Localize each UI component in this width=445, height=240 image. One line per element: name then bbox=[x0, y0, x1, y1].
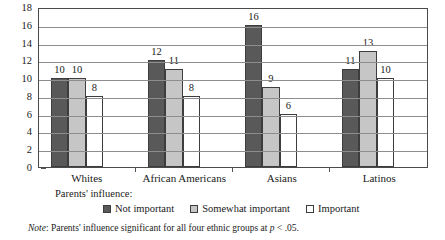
bar-slot: 16 bbox=[245, 9, 263, 167]
note-tail: < .05. bbox=[275, 223, 299, 233]
y-tick-label: 14 bbox=[8, 39, 32, 49]
chart-legend: Not importantSomewhat importantImportant bbox=[103, 203, 359, 215]
bar[interactable]: 8 bbox=[183, 96, 201, 167]
x-tick-label: Whites bbox=[38, 172, 136, 185]
gridline bbox=[39, 133, 427, 134]
note-body: : Parents' influence significant for all… bbox=[46, 223, 270, 233]
bar-value-label: 9 bbox=[268, 73, 273, 84]
y-tick-label: 8 bbox=[8, 92, 32, 102]
legend-swatch-icon bbox=[306, 205, 314, 213]
bar-group: 12118 bbox=[136, 9, 233, 167]
x-tick-label: African Americans bbox=[136, 172, 234, 185]
bar-value-label: 10 bbox=[380, 64, 391, 75]
bar-value-label: 8 bbox=[189, 82, 194, 93]
legend-swatch-icon bbox=[190, 205, 198, 213]
bars-container: 10108 bbox=[39, 9, 136, 167]
bar-groups: 10108121181696111310 bbox=[39, 9, 427, 167]
bar-slot: 10 bbox=[377, 9, 395, 167]
gridline bbox=[39, 80, 427, 81]
bar-chart-figure: 181614121086420 10108121181696111310 Whi… bbox=[0, 0, 445, 240]
bar-slot: 10 bbox=[51, 9, 69, 167]
bar-group: 10108 bbox=[39, 9, 136, 167]
bar-value-label: 6 bbox=[286, 100, 291, 111]
legend-label: Important bbox=[318, 203, 359, 215]
legend-label: Not important bbox=[115, 203, 174, 215]
bar-slot: 11 bbox=[165, 9, 183, 167]
bar-slot: 11 bbox=[342, 9, 360, 167]
gridline bbox=[39, 98, 427, 99]
bar-group: 1696 bbox=[233, 9, 330, 167]
legend-item[interactable]: Not important bbox=[103, 203, 174, 215]
x-tick-label: Asians bbox=[233, 172, 331, 185]
bar[interactable]: 10 bbox=[68, 78, 86, 167]
x-tick-label: Latinos bbox=[331, 172, 429, 185]
bar-slot: 12 bbox=[148, 9, 166, 167]
bar[interactable]: 10 bbox=[377, 78, 395, 167]
y-tick-label: 2 bbox=[8, 145, 32, 155]
y-tick-mark bbox=[41, 168, 46, 169]
note-prefix: Note bbox=[28, 223, 46, 233]
gridline bbox=[39, 62, 427, 63]
bar[interactable]: 6 bbox=[280, 114, 298, 167]
bar-group: 111310 bbox=[330, 9, 427, 167]
bar-slot: 6 bbox=[280, 9, 298, 167]
y-tick-label: 10 bbox=[8, 74, 32, 84]
bar-value-label: 13 bbox=[363, 37, 374, 48]
bar[interactable]: 8 bbox=[86, 96, 104, 167]
bar-value-label: 16 bbox=[248, 11, 259, 22]
bar-slot: 8 bbox=[86, 9, 104, 167]
legend-item[interactable]: Somewhat important bbox=[190, 203, 290, 215]
legend-item[interactable]: Important bbox=[306, 203, 359, 215]
bar-slot: 13 bbox=[359, 9, 377, 167]
y-tick-label: 0 bbox=[8, 163, 32, 173]
plot-area: 10108121181696111310 bbox=[38, 8, 428, 168]
bars-container: 111310 bbox=[330, 9, 427, 167]
bar-value-label: 8 bbox=[92, 82, 97, 93]
bar[interactable]: 11 bbox=[165, 69, 183, 167]
bar[interactable]: 11 bbox=[342, 69, 360, 167]
legend-label: Somewhat important bbox=[202, 203, 290, 215]
gridline bbox=[39, 151, 427, 152]
bar-value-label: 12 bbox=[151, 46, 162, 57]
y-tick-label: 6 bbox=[8, 110, 32, 120]
bar[interactable]: 16 bbox=[245, 25, 263, 167]
legend-swatch-icon bbox=[103, 205, 111, 213]
x-axis-labels: WhitesAfrican AmericansAsiansLatinos bbox=[38, 172, 428, 185]
bar-value-label: 11 bbox=[345, 55, 355, 66]
y-tick-label: 12 bbox=[8, 56, 32, 66]
y-tick-label: 16 bbox=[8, 21, 32, 31]
bar-slot: 8 bbox=[183, 9, 201, 167]
y-tick-label: 4 bbox=[8, 127, 32, 137]
legend-title: Parents' influence: bbox=[55, 188, 132, 200]
gridline bbox=[39, 45, 427, 46]
bar-slot: 10 bbox=[68, 9, 86, 167]
bar[interactable]: 9 bbox=[262, 87, 280, 167]
gridline bbox=[39, 27, 427, 28]
bar-value-label: 11 bbox=[169, 55, 179, 66]
bar-slot: 9 bbox=[262, 9, 280, 167]
bar[interactable]: 10 bbox=[51, 78, 69, 167]
bar[interactable]: 13 bbox=[359, 51, 377, 167]
gridline bbox=[39, 116, 427, 117]
y-axis: 181614121086420 bbox=[8, 3, 32, 168]
y-tick-label: 18 bbox=[8, 3, 32, 13]
bar-value-label: 10 bbox=[72, 64, 83, 75]
bars-container: 12118 bbox=[136, 9, 233, 167]
bar-value-label: 10 bbox=[54, 64, 65, 75]
plot-region: 181614121086420 10108121181696111310 Whi… bbox=[0, 0, 445, 178]
bars-container: 1696 bbox=[233, 9, 330, 167]
chart-note: Note: Parents' influence significant for… bbox=[28, 222, 299, 234]
